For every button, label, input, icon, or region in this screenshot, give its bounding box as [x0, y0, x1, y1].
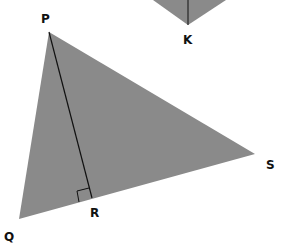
label-q: Q — [4, 230, 14, 243]
geometry-diagram: K P Q R S — [0, 0, 297, 243]
kite-fill — [153, 0, 226, 25]
kite-shape-k: K — [153, 0, 226, 47]
label-k: K — [183, 33, 193, 47]
label-r: R — [90, 206, 99, 220]
triangle-fill — [19, 32, 255, 219]
label-p: P — [41, 12, 50, 26]
triangle-pqs: P Q R S — [4, 12, 275, 243]
label-s: S — [266, 158, 275, 172]
